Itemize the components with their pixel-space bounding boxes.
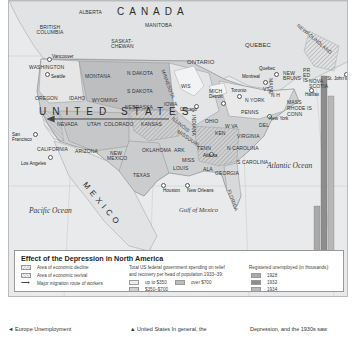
swatch-mid-icon: [129, 287, 139, 292]
state-label: UTAH: [87, 122, 101, 127]
state-label: MONTANA: [85, 74, 110, 79]
province-label: SASKAT-CHEWAN: [111, 39, 133, 49]
city-marker: [45, 72, 50, 77]
state-label: KANSAS: [141, 122, 162, 127]
city-marker: [237, 94, 242, 99]
ocean-label-atlantic: Atlantic Ocean: [267, 161, 312, 171]
legend-item-spending-low: up to $350: [129, 280, 167, 285]
hatch-revival-icon: [21, 273, 31, 278]
legend-item-spending-high: over $700: [175, 280, 211, 285]
city-marker: [48, 155, 53, 160]
state-label: ARIZONA: [75, 149, 98, 154]
state-label: ALA: [203, 167, 213, 172]
city-label: Toronto: [231, 89, 246, 94]
caption-europe: ◄ Europe Unemployment: [8, 326, 71, 332]
state-label: N YORK: [245, 98, 265, 103]
state-label: TEXAS: [133, 173, 150, 178]
city-label: Houston: [163, 189, 180, 194]
state-label: WIS: [181, 84, 191, 89]
state-label: MISS: [182, 158, 195, 163]
state-label: NEW MEXICO: [107, 151, 125, 161]
unemployed-heading: Registered unemployed (in thousands):: [249, 265, 329, 270]
hatch-decline-icon: [21, 265, 31, 270]
city-label: Chicago: [180, 108, 197, 113]
state-label: S CAROLINA: [237, 160, 268, 165]
city-label: St. John's: [327, 77, 347, 82]
swatch-1934-icon: [251, 287, 261, 292]
swatch-high-icon: [175, 280, 185, 285]
province-label: ONTARIO: [187, 59, 215, 65]
city-label: Halifax: [305, 93, 319, 98]
legend-title: Effect of the Depression in North Americ…: [21, 254, 163, 263]
city-label: Vancouver: [52, 55, 74, 60]
state-label: N CAROLINA: [227, 146, 259, 151]
city-label: Quebec: [259, 67, 275, 72]
state-label: VIRGINIA: [237, 134, 260, 139]
state-label: N DAKOTA: [127, 71, 153, 76]
state-label: OKLAHOMA: [142, 148, 171, 153]
legend-item-1928: 1928: [251, 273, 277, 278]
legend-item-decline: Area of economic decline: [21, 265, 89, 270]
legend-item-spending-mid: $350–$700: [129, 287, 168, 292]
state-label: INDIANA: [191, 115, 196, 136]
city-label: New Orleans: [187, 189, 214, 194]
city-marker: [274, 72, 279, 77]
city-label: Seattle: [51, 75, 65, 80]
swatch-low-icon: [129, 280, 139, 285]
state-label: NEBRASKA: [125, 105, 153, 110]
city-label: Detroit: [209, 95, 223, 100]
state-label: ARK: [174, 148, 185, 153]
city-label: Atlanta: [203, 154, 217, 159]
state-label: W VA: [225, 124, 238, 129]
state-label: IDAHO: [69, 96, 85, 101]
state-label: MAINE: [268, 78, 273, 94]
spending-heading: and recovery per head of population 1933…: [129, 272, 223, 277]
state-label: WASHINGTON: [29, 65, 64, 70]
state-label: PENNS: [241, 110, 259, 115]
state-label: IOWA: [164, 102, 178, 107]
state-label: KEN: [215, 131, 226, 136]
legend-item-1934: 1934: [251, 287, 277, 292]
country-label-usa: UNITED STATES: [39, 107, 194, 117]
city-marker: [263, 80, 268, 85]
swatch-1928-icon: [251, 273, 261, 278]
caption-footer: ◄ Europe Unemployment ▲ United States In…: [0, 326, 356, 337]
map-legend: Effect of the Depression in North Americ…: [14, 250, 344, 292]
ocean-label-gulf: Gulf of Mexico: [179, 206, 218, 214]
city-label: San Francisco: [12, 133, 32, 142]
province-label: QUEBEC: [245, 42, 271, 48]
state-label: LOUIS: [173, 166, 189, 171]
city-label: Los Angeles: [21, 162, 46, 167]
caption-continued: Depression, and the 1930s saw: [250, 326, 327, 332]
state-label: S DAKOTA: [127, 89, 153, 94]
spending-heading: Total US federal government spending on …: [129, 265, 225, 270]
province-label: BRITISH COLUMBIA: [36, 25, 64, 35]
state-label: TENN: [197, 146, 211, 151]
caption-united-states: ▲ United States In general, the: [130, 326, 207, 332]
swatch-1932-icon: [251, 280, 261, 285]
province-label: NEW BRUNS: [283, 71, 299, 81]
state-label: GEORGIA: [215, 171, 239, 176]
state-label: DEL: [259, 123, 269, 128]
state-label: CONN: [287, 112, 302, 117]
legend-item-migration: ⟶ Major migration route of workers: [21, 281, 103, 286]
legend-item-1932: 1932: [251, 280, 277, 285]
city-marker: [221, 101, 226, 106]
state-label: NEVADA: [57, 122, 78, 127]
city-label: New York: [269, 117, 288, 122]
state-label: WYOMING: [92, 98, 118, 103]
state-label: OHIO: [205, 119, 218, 124]
state-label: CALIFORNIA: [37, 147, 68, 152]
state-label: OREGON: [35, 96, 58, 101]
province-label: MANITOBA: [145, 23, 172, 28]
country-label-canada: CANADA: [117, 7, 189, 17]
city-marker: [33, 132, 38, 137]
legend-item-revival: Area of economic revival: [21, 273, 87, 278]
province-label: ALBERTA: [79, 10, 102, 15]
ocean-label-pacific: Pacific Ocean: [29, 206, 72, 216]
state-label: COLORADO: [104, 122, 133, 127]
city-label: Montreal: [242, 75, 260, 80]
migration-arrow-icon: ⟶: [21, 281, 31, 286]
